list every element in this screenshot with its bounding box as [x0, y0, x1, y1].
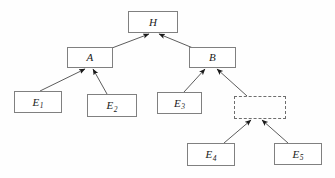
node-subscript-e5: 5: [300, 153, 304, 162]
edge-e3-to-b: [184, 69, 205, 92]
node-e3[interactable]: E3: [157, 92, 202, 114]
node-subscript-e2: 2: [114, 105, 118, 114]
node-b[interactable]: B: [189, 47, 236, 68]
node-ud[interactable]: [234, 96, 286, 119]
node-subscript-e1: 1: [40, 101, 44, 110]
node-label-h: H: [149, 17, 157, 28]
node-label-b: B: [209, 52, 216, 63]
node-label-e5: E5: [293, 149, 304, 160]
node-subscript-e3: 3: [181, 102, 185, 111]
edge-e4-to-ud: [224, 120, 251, 143]
node-label-e1: E1: [33, 97, 44, 108]
edge-a-to-h: [112, 34, 149, 48]
node-e2[interactable]: E2: [87, 94, 137, 117]
node-e4[interactable]: E4: [187, 143, 235, 166]
node-label-e4: E4: [206, 149, 217, 160]
edge-e2-to-a: [93, 69, 107, 94]
edge-e1-to-a: [40, 69, 85, 91]
node-e1[interactable]: E1: [14, 91, 62, 113]
node-subscript-e4: 4: [213, 154, 217, 163]
edge-b-to-h: [159, 34, 193, 48]
node-label-a: A: [87, 52, 94, 63]
node-label-e3: E3: [174, 98, 185, 109]
edge-e5-to-ud: [262, 120, 288, 143]
hierarchy-diagram: HABE1E2E3E4E5: [0, 0, 335, 178]
node-e5[interactable]: E5: [274, 143, 322, 165]
node-h[interactable]: H: [128, 11, 178, 33]
edge-ud-to-b: [217, 69, 247, 96]
node-a[interactable]: A: [67, 47, 113, 68]
node-label-e2: E2: [107, 100, 118, 111]
